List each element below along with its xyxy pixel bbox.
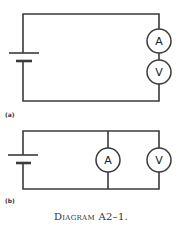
wire-b-top — [23, 131, 159, 155]
circuit-b: A V — [8, 131, 171, 189]
voltmeter-b-symbol: V — [155, 154, 163, 167]
label-a: (a) — [5, 111, 15, 118]
wire-a-top — [23, 14, 159, 53]
ammeter-b: A — [96, 148, 120, 172]
label-b: (b) — [5, 197, 15, 204]
voltmeter-b: V — [147, 148, 171, 172]
ammeter-a-symbol: A — [155, 35, 163, 48]
voltmeter-a-symbol: V — [155, 66, 163, 79]
circuit-a: A V — [9, 14, 171, 101]
ammeter-b-symbol: A — [104, 154, 112, 167]
circuit-diagrams: A V A V — [0, 0, 182, 228]
wire-b-bottom — [23, 163, 159, 189]
diagram-caption: Diagram A2–1. — [0, 211, 182, 222]
wire-a-bottom — [23, 61, 159, 101]
ammeter-a: A — [147, 29, 171, 53]
voltmeter-a: V — [147, 60, 171, 84]
